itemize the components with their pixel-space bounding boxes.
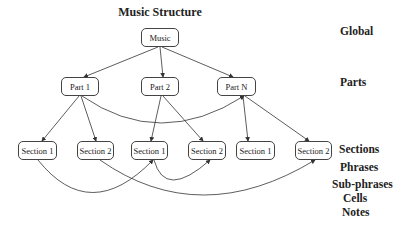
level-sections: Sections <box>339 143 379 155</box>
level-global: Global <box>340 25 373 37</box>
level-sub-phrases: Sub-phrases <box>332 178 393 190</box>
node-partn-section-1: Section 1 <box>236 141 275 160</box>
node-part2-section-1: Section 1 <box>131 141 168 160</box>
node-part-n: Part N <box>217 77 256 96</box>
level-cells: Cells <box>343 192 367 204</box>
level-parts: Parts <box>340 76 366 88</box>
node-part2-section-2: Section 2 <box>188 141 226 160</box>
node-partn-section-2: Section 2 <box>295 141 332 160</box>
node-part1-section-2: Section 2 <box>77 141 114 160</box>
node-part-1: Part 1 <box>61 77 99 96</box>
node-music: Music <box>141 28 179 47</box>
node-part1-section-1: Section 1 <box>18 141 57 160</box>
node-part-2: Part 2 <box>141 77 179 96</box>
level-notes: Notes <box>342 206 369 218</box>
diagram-title: Music Structure <box>95 5 225 20</box>
music-structure-diagram: Music Structure Music Part 1 Part 2 Part… <box>0 0 406 227</box>
level-phrases: Phrases <box>340 161 378 173</box>
